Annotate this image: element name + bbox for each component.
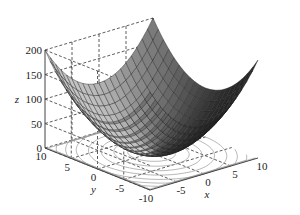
surface-patch xyxy=(45,50,56,69)
z-tick-label: 200 xyxy=(26,44,43,56)
x-tick-label: 5 xyxy=(232,168,238,180)
x-axis-line xyxy=(150,158,258,190)
x-tick-label: -5 xyxy=(176,184,186,196)
z-tick-label: 50 xyxy=(31,118,43,130)
y-tick-label: -5 xyxy=(115,182,125,194)
x-axis-label: x xyxy=(204,188,210,200)
z-tick-label: 100 xyxy=(26,93,43,105)
y-axis-label: y xyxy=(90,183,96,195)
y-tick-label: -10 xyxy=(139,192,154,204)
paraboloid-surface xyxy=(45,18,258,157)
x-tick-label: 0 xyxy=(205,176,211,188)
surface-patch xyxy=(247,60,258,78)
z-axis-label: z xyxy=(14,93,20,105)
y-tick-label: 5 xyxy=(65,161,71,173)
y-tick-label: 0 xyxy=(91,171,97,183)
z-tick-label: 150 xyxy=(26,69,43,81)
surface-patch xyxy=(50,58,61,76)
surface-plot: 050100150200-10-50510-50510zyx xyxy=(0,0,300,215)
y-tick-label: 10 xyxy=(36,150,48,162)
x-tick-label: 10 xyxy=(257,160,269,172)
surface-patch xyxy=(242,67,253,84)
